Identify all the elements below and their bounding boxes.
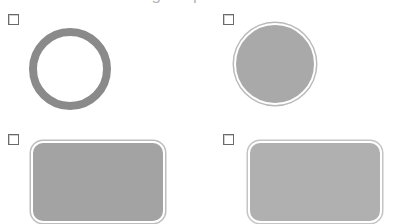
filled-circle-shape[interactable] [234, 23, 316, 105]
outline-circle-shape[interactable] [29, 28, 111, 110]
checkbox-rounded-rect-dark[interactable] [8, 134, 19, 145]
page-heading-cropped: Select matching shapes [0, 0, 394, 3]
checkbox-rounded-rect-light[interactable] [223, 134, 234, 145]
rounded-rect-dark-shape[interactable] [31, 141, 165, 223]
checkbox-outline-circle[interactable] [8, 14, 19, 25]
rounded-rect-light-shape[interactable] [248, 141, 382, 223]
checkbox-filled-circle[interactable] [223, 14, 234, 25]
